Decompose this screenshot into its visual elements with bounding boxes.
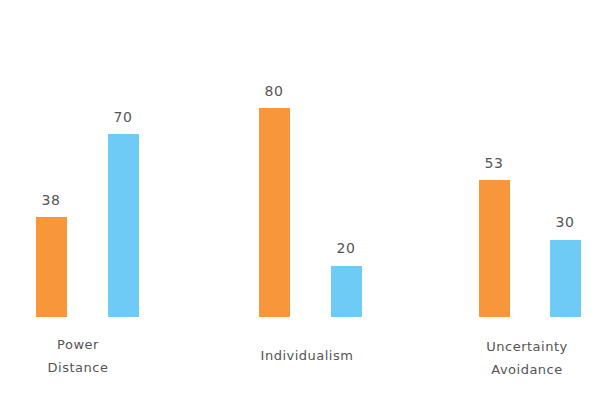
bar-power-distance-blue [108, 134, 139, 317]
value-label-power-distance-orange: 38 [26, 192, 76, 208]
value-label-individualism-orange: 80 [249, 83, 299, 99]
value-label-uncertainty-avoidance-blue: 30 [540, 214, 590, 230]
value-label-individualism-blue: 20 [321, 240, 371, 256]
category-label-individualism: Individualism [242, 344, 372, 367]
category-label-line: Distance [13, 356, 143, 379]
bar-individualism-blue [331, 266, 362, 317]
bar-individualism-orange [259, 108, 290, 317]
value-label-power-distance-blue: 70 [98, 109, 148, 125]
bar-power-distance-orange [36, 217, 67, 317]
category-label-power-distance: Power Distance [13, 333, 143, 379]
category-label-line: Avoidance [462, 358, 592, 381]
bar-uncertainty-avoidance-blue [550, 240, 581, 317]
value-label-uncertainty-avoidance-orange: 53 [469, 155, 519, 171]
category-label-line: Power [13, 333, 143, 356]
bar-uncertainty-avoidance-orange [479, 180, 510, 317]
category-label-line: Uncertainty [462, 335, 592, 358]
category-label-uncertainty-avoidance: Uncertainty Avoidance [462, 335, 592, 381]
